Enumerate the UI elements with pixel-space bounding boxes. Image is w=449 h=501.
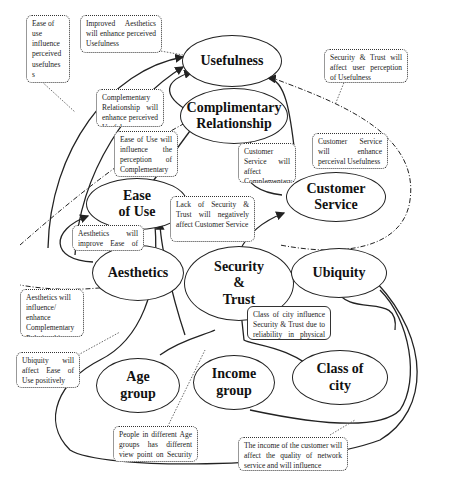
node-aesthetics: Aesthetics <box>92 245 184 301</box>
node-age-group: Age group <box>96 358 180 413</box>
note-ubiquity-ease-use: Ubiquity will affect Ease of Use positiv… <box>16 352 80 388</box>
note-complementary-usefulness: Complementary Relationship will enhance … <box>96 89 164 127</box>
note-customer-service-complementary: Customer Service will affect Complementa… <box>238 143 296 183</box>
note-class-city-security: Class of city influence Security & Trust… <box>247 306 331 340</box>
node-class-of-city: Class of city <box>292 350 388 405</box>
note-aesthetics-ease-use: Aesthetics will improve Ease of Use <box>72 225 144 251</box>
note-aesthetics-complementary: Aesthetics will influence/ enhance Compl… <box>20 289 84 337</box>
node-customer-service: Customer Service <box>286 172 386 222</box>
node-ubiquity: Ubiquity <box>291 248 387 298</box>
note-security-customer-service: Lack of Security & Trust will negatively… <box>170 196 255 242</box>
note-aesthetics-usefulness: Improved Aesthetics will enhance perceiv… <box>80 15 162 53</box>
node-usefulness: Usefulness <box>182 35 282 87</box>
note-age-security: People in different Age groups has diffe… <box>113 426 198 462</box>
note-income-network: The income of the customer will affect t… <box>238 437 348 471</box>
node-complimentary-relationship: Complimentary Relationship <box>180 88 288 144</box>
node-income-group: Income group <box>193 355 275 410</box>
note-security-usefulness: Security & Trust will affect user percep… <box>324 49 408 83</box>
note-customer-service-usefulness: Customer Service will enhance perceival … <box>312 133 388 169</box>
note-ease-use-usefulness: Ease of use influence perceived usefulne… <box>26 15 70 83</box>
note-ease-use-complementary: Ease of Use will influence the perceptio… <box>114 131 178 177</box>
